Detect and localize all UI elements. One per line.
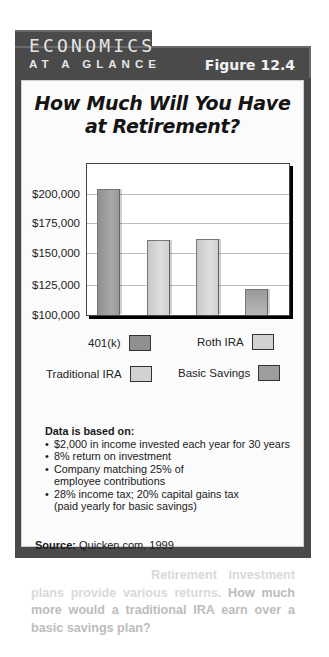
legend-swatch xyxy=(129,335,151,351)
chart-title-line2: at Retirement? xyxy=(21,115,304,138)
legend-label: Traditional IRA xyxy=(46,368,122,380)
source-line: Source: Quicken.com, 1999 xyxy=(35,539,174,551)
caption-heading: Using Graphs xyxy=(31,567,128,582)
y-tick-label: $100,000 xyxy=(32,309,84,321)
y-tick-label: $125,000 xyxy=(32,279,84,291)
source-text: Quicken.com, 1999 xyxy=(76,539,174,551)
legend-item-401k: 401(k) xyxy=(88,335,151,351)
bar-401k xyxy=(97,189,120,315)
notes-item: Company matching 25% of employee contrib… xyxy=(45,463,230,488)
legend-swatch xyxy=(130,366,152,382)
data-notes: Data is based on: $2,000 in income inves… xyxy=(45,425,295,513)
notes-heading: Data is based on: xyxy=(45,425,295,438)
y-tick-label: $150,000 xyxy=(32,247,84,259)
notes-item: $2,000 in income invested each year for … xyxy=(45,438,295,451)
legend-item-basic-savings: Basic Savings xyxy=(178,365,280,381)
y-tick-label: $200,000 xyxy=(32,188,84,200)
legend-label: Roth IRA xyxy=(197,336,244,348)
legend-item-traditional-ira: Traditional IRA xyxy=(46,366,152,382)
plot-area xyxy=(86,163,290,316)
figure-label: Figure 12.4 xyxy=(205,57,295,73)
series-subtitle: AT A GLANCE xyxy=(29,57,161,71)
notes-item: 28% income tax; 20% capital gains tax (p… xyxy=(45,488,245,513)
source-label: Source: xyxy=(35,539,76,551)
legend-swatch xyxy=(258,365,280,381)
legend-item-roth-ira: Roth IRA xyxy=(197,334,274,350)
bar-traditional-ira xyxy=(147,240,170,315)
legend-swatch xyxy=(252,334,274,350)
chart-title-line1: How Much Will You Have xyxy=(21,92,304,115)
legend-label: Basic Savings xyxy=(178,367,250,379)
notes-list: $2,000 in income invested each year for … xyxy=(45,438,295,513)
series-title: ECONOMICS xyxy=(29,37,155,55)
y-tick-label: $175,000 xyxy=(32,217,84,229)
bar-roth-ira xyxy=(196,239,219,315)
legend-label: 401(k) xyxy=(88,337,121,349)
notes-item: 8% return on investment xyxy=(45,450,295,463)
caption: Using Graphs Retirement investment plans… xyxy=(31,566,295,637)
bar-basic-savings xyxy=(245,289,268,315)
